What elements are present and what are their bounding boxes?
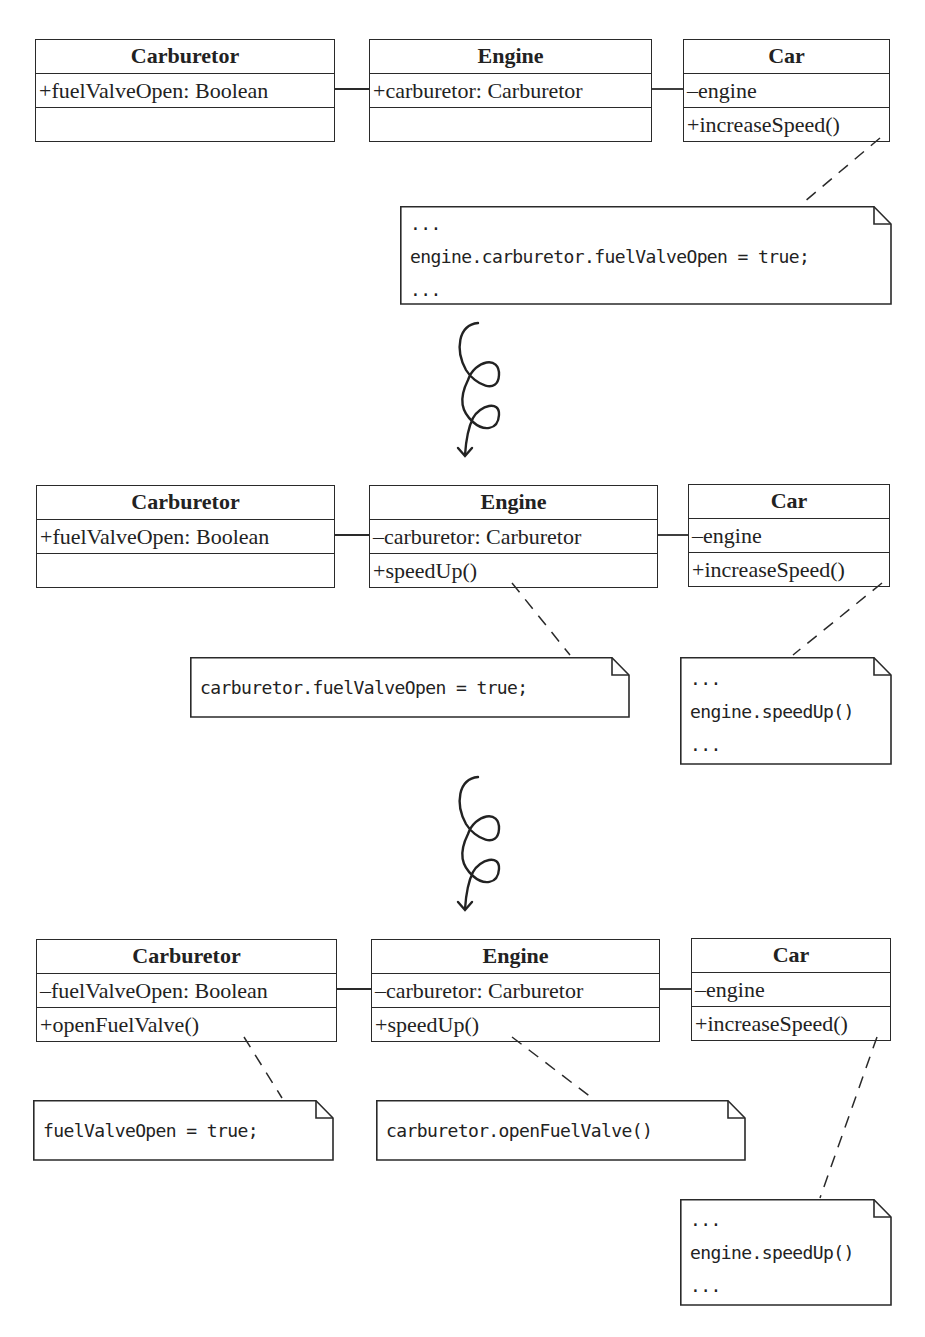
class-name: Car bbox=[692, 939, 890, 972]
class-attributes: +carburetor: Carburetor bbox=[370, 73, 651, 107]
class-name: Carburetor bbox=[37, 486, 334, 519]
class-engine-stage3: Engine –carburetor: Carburetor +speedUp(… bbox=[371, 939, 660, 1042]
class-attributes: –fuelValveOpen: Boolean bbox=[37, 973, 336, 1007]
class-name: Carburetor bbox=[36, 40, 334, 73]
note-anchor-line bbox=[804, 138, 880, 202]
uml-refactoring-diagram: Carburetor +fuelValveOpen: Boolean Engin… bbox=[0, 0, 925, 1337]
class-operations: +speedUp() bbox=[372, 1007, 659, 1041]
note-line: engine.carburetor.fuelValveOpen = true; bbox=[410, 240, 809, 273]
class-name: Engine bbox=[370, 40, 651, 73]
note-line: carburetor.fuelValveOpen = true; bbox=[200, 671, 528, 704]
class-operations: +increaseSpeed() bbox=[684, 107, 889, 141]
note-carburetor-stage3: fuelValveOpen = true; bbox=[33, 1100, 334, 1161]
class-attributes: +fuelValveOpen: Boolean bbox=[36, 73, 334, 107]
note-line: ... bbox=[690, 1203, 854, 1236]
class-operations: +openFuelValve() bbox=[37, 1007, 336, 1041]
note-anchor-line bbox=[820, 1037, 877, 1198]
class-name: Carburetor bbox=[37, 940, 336, 973]
class-name: Engine bbox=[372, 940, 659, 973]
note-car-stage3: ... engine.speedUp() ... bbox=[680, 1199, 892, 1306]
class-car-stage2: Car –engine +increaseSpeed() bbox=[688, 484, 890, 587]
note-line: ... bbox=[410, 207, 809, 240]
class-operations: +increaseSpeed() bbox=[689, 552, 889, 586]
class-operations: +increaseSpeed() bbox=[692, 1006, 890, 1040]
class-name: Engine bbox=[370, 486, 657, 519]
class-car-stage1: Car –engine +increaseSpeed() bbox=[683, 39, 890, 142]
note-line: ... bbox=[690, 1269, 854, 1302]
note-line: engine.speedUp() bbox=[690, 1236, 854, 1269]
class-operations: +speedUp() bbox=[370, 553, 657, 587]
note-anchor-line bbox=[512, 583, 570, 655]
class-carburetor-stage3: Carburetor –fuelValveOpen: Boolean +open… bbox=[36, 939, 337, 1042]
note-anchor-line bbox=[793, 583, 882, 655]
class-operations bbox=[37, 553, 334, 587]
class-attributes: +fuelValveOpen: Boolean bbox=[37, 519, 334, 553]
class-engine-stage1: Engine +carburetor: Carburetor bbox=[369, 39, 652, 142]
curly-arrow-down-icon bbox=[458, 323, 499, 456]
curly-arrow-down-icon bbox=[458, 777, 499, 910]
class-attributes: –carburetor: Carburetor bbox=[370, 519, 657, 553]
class-carburetor-stage1: Carburetor +fuelValveOpen: Boolean bbox=[35, 39, 335, 142]
class-car-stage3: Car –engine +increaseSpeed() bbox=[691, 938, 891, 1041]
class-attributes: –engine bbox=[689, 518, 889, 552]
note-line: ... bbox=[690, 662, 854, 695]
note-anchor-line bbox=[512, 1037, 592, 1098]
class-attributes: –engine bbox=[692, 972, 890, 1006]
class-attributes: –carburetor: Carburetor bbox=[372, 973, 659, 1007]
note-line: carburetor.openFuelValve() bbox=[386, 1114, 652, 1147]
note-car-stage2: ... engine.speedUp() ... bbox=[680, 657, 892, 765]
note-anchor-line bbox=[244, 1037, 282, 1098]
class-operations bbox=[36, 107, 334, 141]
class-carburetor-stage2: Carburetor +fuelValveOpen: Boolean bbox=[36, 485, 335, 588]
note-line: fuelValveOpen = true; bbox=[43, 1114, 258, 1147]
class-name: Car bbox=[684, 40, 889, 73]
note-engine-stage2: carburetor.fuelValveOpen = true; bbox=[190, 657, 630, 718]
class-name: Car bbox=[689, 485, 889, 518]
note-line: ... bbox=[690, 728, 854, 761]
note-car-stage1: ... engine.carburetor.fuelValveOpen = tr… bbox=[400, 206, 892, 305]
note-line: engine.speedUp() bbox=[690, 695, 854, 728]
class-attributes: –engine bbox=[684, 73, 889, 107]
class-engine-stage2: Engine –carburetor: Carburetor +speedUp(… bbox=[369, 485, 658, 588]
class-operations bbox=[370, 107, 651, 141]
note-line: ... bbox=[410, 273, 809, 306]
note-engine-stage3: carburetor.openFuelValve() bbox=[376, 1100, 746, 1161]
